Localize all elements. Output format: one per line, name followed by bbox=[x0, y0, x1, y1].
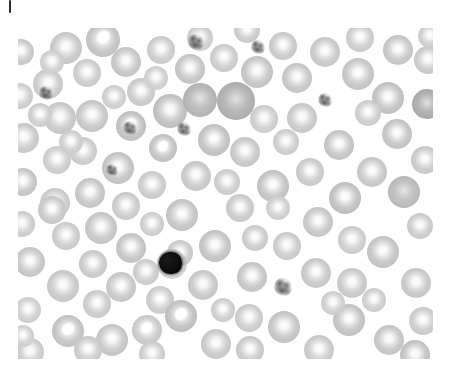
red-blood-cell bbox=[28, 103, 52, 127]
red-blood-cell bbox=[266, 196, 290, 220]
red-blood-cell bbox=[199, 230, 231, 262]
red-blood-cell bbox=[18, 247, 45, 277]
red-blood-cell bbox=[237, 262, 267, 292]
platelet bbox=[251, 40, 265, 54]
red-blood-cell bbox=[411, 146, 433, 174]
red-blood-cell bbox=[85, 212, 117, 244]
red-blood-cell bbox=[211, 298, 235, 322]
red-blood-cell bbox=[38, 196, 66, 224]
red-blood-cell bbox=[214, 169, 240, 195]
platelet bbox=[106, 164, 118, 176]
micrograph-canvas bbox=[0, 0, 450, 381]
red-blood-cell bbox=[236, 336, 264, 359]
red-blood-cell bbox=[296, 158, 324, 186]
red-blood-cell bbox=[79, 250, 107, 278]
red-blood-cell bbox=[418, 28, 433, 48]
red-blood-cell bbox=[242, 225, 268, 251]
red-blood-cell bbox=[47, 270, 79, 302]
red-blood-cell bbox=[241, 56, 273, 88]
red-blood-cell bbox=[166, 199, 198, 231]
red-blood-cell bbox=[75, 178, 105, 208]
red-blood-cell bbox=[188, 270, 218, 300]
blood-smear-field bbox=[18, 28, 433, 359]
red-blood-cell bbox=[400, 340, 430, 359]
red-blood-cell bbox=[59, 130, 83, 154]
red-blood-cell bbox=[287, 103, 317, 133]
red-blood-cell bbox=[140, 212, 164, 236]
red-blood-cell bbox=[149, 134, 177, 162]
platelet bbox=[177, 122, 191, 136]
red-blood-cell bbox=[226, 194, 254, 222]
red-blood-cell bbox=[74, 336, 102, 359]
red-blood-cell bbox=[268, 311, 300, 343]
platelet bbox=[188, 34, 204, 50]
red-blood-cell bbox=[112, 192, 140, 220]
red-blood-cell bbox=[83, 290, 111, 318]
red-blood-cell bbox=[414, 46, 433, 74]
red-blood-cell bbox=[133, 259, 159, 285]
red-blood-cell bbox=[250, 105, 278, 133]
red-blood-cell bbox=[230, 137, 260, 167]
red-blood-cell bbox=[52, 222, 80, 250]
red-blood-cell bbox=[18, 123, 39, 153]
red-blood-cell bbox=[183, 83, 217, 117]
platelet bbox=[318, 93, 332, 107]
red-blood-cell bbox=[102, 85, 126, 109]
platelet bbox=[274, 278, 292, 296]
red-blood-cell bbox=[144, 66, 168, 90]
red-blood-cell bbox=[132, 315, 162, 345]
red-blood-cell bbox=[147, 36, 175, 64]
red-blood-cell bbox=[301, 258, 331, 288]
red-blood-cell bbox=[407, 213, 433, 239]
red-blood-cell bbox=[40, 50, 64, 74]
red-blood-cell bbox=[210, 44, 238, 72]
red-blood-cell bbox=[235, 304, 263, 332]
red-blood-cell bbox=[198, 124, 230, 156]
red-blood-cell bbox=[18, 83, 33, 109]
red-blood-cell bbox=[362, 288, 386, 312]
red-blood-cell bbox=[201, 329, 231, 359]
red-blood-cell bbox=[342, 58, 374, 90]
red-blood-cell bbox=[382, 119, 412, 149]
red-blood-cell bbox=[18, 297, 41, 323]
red-blood-cell bbox=[357, 157, 387, 187]
red-blood-cell bbox=[321, 291, 345, 315]
white-blood-cell-lymphocyte bbox=[157, 249, 187, 279]
red-blood-cell bbox=[18, 39, 34, 65]
red-blood-cell bbox=[18, 168, 37, 196]
red-blood-cell bbox=[138, 171, 166, 199]
red-blood-cell bbox=[76, 100, 108, 132]
platelet bbox=[123, 121, 137, 135]
red-blood-cell bbox=[338, 226, 366, 254]
red-blood-cell bbox=[111, 47, 141, 77]
red-blood-cell bbox=[324, 130, 354, 160]
red-blood-cell bbox=[139, 341, 165, 359]
red-blood-cell bbox=[355, 100, 381, 126]
red-blood-cell bbox=[401, 268, 431, 298]
red-blood-cell bbox=[181, 161, 211, 191]
nucleus bbox=[159, 252, 182, 275]
red-blood-cell bbox=[303, 207, 333, 237]
red-blood-cell bbox=[304, 335, 334, 359]
red-blood-cell bbox=[409, 307, 433, 335]
red-blood-cell bbox=[217, 82, 255, 120]
red-blood-cell bbox=[175, 54, 205, 84]
platelet bbox=[39, 86, 53, 100]
red-blood-cell bbox=[282, 63, 312, 93]
red-blood-cell bbox=[165, 300, 197, 332]
red-blood-cell bbox=[106, 272, 136, 302]
red-blood-cell bbox=[73, 59, 101, 87]
red-blood-cell bbox=[383, 35, 413, 65]
red-blood-cell bbox=[18, 211, 35, 237]
red-blood-cell bbox=[388, 176, 420, 208]
red-blood-cell bbox=[269, 32, 297, 60]
red-blood-cell bbox=[412, 89, 433, 119]
red-blood-cell bbox=[346, 28, 374, 52]
red-blood-cell bbox=[367, 236, 399, 268]
corner-tick-artifact bbox=[9, 0, 11, 13]
red-blood-cell bbox=[310, 37, 340, 67]
red-blood-cell bbox=[273, 232, 301, 260]
red-blood-cell bbox=[273, 129, 299, 155]
red-blood-cell bbox=[329, 182, 361, 214]
